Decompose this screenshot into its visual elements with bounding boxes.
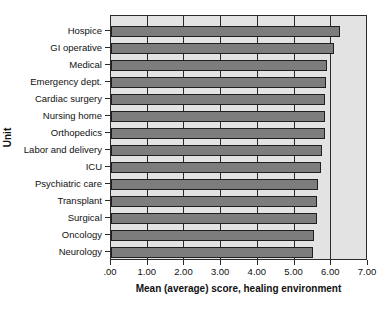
bar	[111, 179, 318, 190]
bar-row	[111, 159, 366, 176]
x-tick-label: 7.00	[358, 266, 377, 277]
x-tick-mark	[330, 260, 331, 265]
bar	[111, 128, 325, 139]
x-axis-tick-marks	[110, 260, 367, 265]
x-tick-mark	[367, 260, 368, 265]
plot-area	[110, 15, 367, 260]
bar-row	[111, 74, 366, 91]
bar-row	[111, 91, 366, 108]
category-label: Medical	[69, 60, 102, 70]
category-label: Transplant	[57, 196, 102, 206]
category-label: Cardiac surgery	[35, 94, 102, 104]
bar	[111, 94, 325, 105]
x-tick-label: 4.00	[248, 266, 267, 277]
category-label: Labor and delivery	[24, 145, 102, 155]
category-label: ICU	[86, 162, 102, 172]
category-label-row: Transplant	[14, 192, 106, 209]
bar-row	[111, 142, 366, 159]
category-label: Emergency dept.	[30, 77, 102, 87]
category-label: GI operative	[50, 43, 102, 53]
category-axis-labels: HospiceGI operativeMedicalEmergency dept…	[14, 22, 106, 260]
x-tick-label: 1.00	[137, 266, 156, 277]
bar-row	[111, 244, 366, 260]
x-tick-label: .00	[103, 266, 116, 277]
bar	[111, 162, 321, 173]
x-tick-mark	[147, 260, 148, 265]
category-label-row: Surgical	[14, 209, 106, 226]
y-axis-title-label: Unit	[3, 128, 14, 147]
x-tick-label: 5.00	[284, 266, 303, 277]
category-label: Psychiatric care	[35, 179, 102, 189]
bar	[111, 60, 327, 71]
bar	[111, 213, 317, 224]
category-label-row: Cardiac surgery	[14, 90, 106, 107]
x-tick-mark	[294, 260, 295, 265]
bar-chart: Unit HospiceGI operativeMedicalEmergency…	[0, 0, 384, 315]
x-tick-mark	[110, 260, 111, 265]
x-tick-label: 3.00	[211, 266, 230, 277]
bar-row	[111, 57, 366, 74]
bar-row	[111, 108, 366, 125]
bar	[111, 111, 325, 122]
category-label: Neurology	[59, 247, 102, 257]
category-label: Hospice	[68, 26, 102, 36]
category-label-row: Emergency dept.	[14, 73, 106, 90]
bar-row	[111, 125, 366, 142]
bar	[111, 145, 322, 156]
category-label: Orthopedics	[51, 128, 102, 138]
category-label: Surgical	[68, 213, 102, 223]
bar	[111, 247, 313, 258]
bar-row	[111, 210, 366, 227]
category-label-row: Labor and delivery	[14, 141, 106, 158]
category-label: Nursing home	[43, 111, 102, 121]
x-tick-label: 2.00	[174, 266, 193, 277]
x-tick-mark	[183, 260, 184, 265]
bar	[111, 230, 314, 241]
category-label-row: Medical	[14, 56, 106, 73]
category-label-row: Nursing home	[14, 107, 106, 124]
x-tick-label: 6.00	[321, 266, 340, 277]
category-label-row: Psychiatric care	[14, 175, 106, 192]
bar-row	[111, 193, 366, 210]
x-tick-mark	[257, 260, 258, 265]
bar	[111, 77, 326, 88]
category-label-row: Oncology	[14, 226, 106, 243]
x-axis-tick-labels: .001.002.003.004.005.006.007.00	[110, 266, 367, 280]
x-tick-mark	[220, 260, 221, 265]
category-label-row: ICU	[14, 158, 106, 175]
category-label: Oncology	[62, 230, 102, 240]
bar-row	[111, 176, 366, 193]
bar-row	[111, 23, 366, 40]
bar	[111, 43, 334, 54]
bar	[111, 26, 340, 37]
bar-row	[111, 227, 366, 244]
bar-row	[111, 40, 366, 57]
category-label-row: Orthopedics	[14, 124, 106, 141]
category-label-row: Hospice	[14, 22, 106, 39]
category-label-row: GI operative	[14, 39, 106, 56]
x-axis-title: Mean (average) score, healing environmen…	[110, 283, 367, 294]
bars-layer	[111, 23, 366, 260]
category-label-row: Neurology	[14, 243, 106, 260]
bar	[111, 196, 317, 207]
